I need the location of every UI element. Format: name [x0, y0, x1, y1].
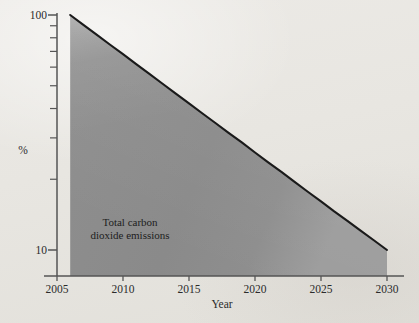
- y-axis-title: %: [18, 144, 28, 156]
- chart-canvas: 100 10 % 2005 2010 2015 2020 2025 2030 Y…: [0, 0, 419, 323]
- annotation-line-1: Total carbon: [102, 216, 158, 228]
- y-tick-label-100: 100: [30, 9, 48, 21]
- y-tick-label-10: 10: [36, 244, 48, 256]
- x-tick-label-2015: 2015: [178, 283, 201, 295]
- annotation-line-2: dioxide emissions: [90, 229, 169, 241]
- x-axis-title: Year: [211, 298, 232, 310]
- x-tick-label-2020: 2020: [244, 283, 267, 295]
- y-axis-ticks: [48, 15, 57, 250]
- x-tick-label-2010: 2010: [112, 283, 135, 295]
- emissions-decay-chart: 100 10 % 2005 2010 2015 2020 2025 2030 Y…: [0, 0, 419, 323]
- x-tick-label-2005: 2005: [46, 283, 69, 295]
- x-tick-label-2030: 2030: [376, 283, 399, 295]
- area-top-feather: [40, 10, 240, 130]
- x-tick-label-2025: 2025: [310, 283, 333, 295]
